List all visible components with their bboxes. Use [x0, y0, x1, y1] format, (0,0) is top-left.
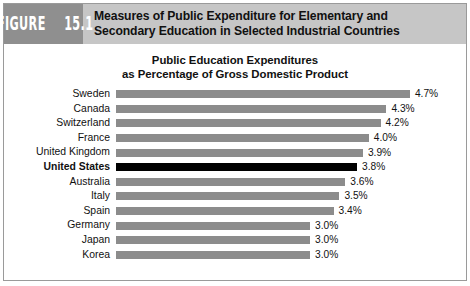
bar-value-label: 4.3%	[391, 104, 414, 114]
bar-row: Japan3.0%	[4, 233, 466, 248]
bar-value-label: 3.4%	[339, 206, 362, 216]
bar-row: Germany3.0%	[4, 218, 466, 233]
bar	[116, 134, 369, 142]
bar-row: United States3.8%	[4, 160, 466, 175]
bar	[116, 236, 310, 244]
bar-category-label: Japan	[4, 235, 116, 245]
bar-track: 4.0%	[116, 131, 466, 146]
bar-value-label: 3.0%	[315, 235, 338, 245]
bar-row: Canada4.3%	[4, 102, 466, 117]
figure-badge-number: 15.1	[64, 15, 93, 34]
bar-track: 4.7%	[116, 87, 466, 102]
bar-value-label: 4.2%	[386, 118, 409, 128]
figure-title-line-2: Secondary Education in Selected Industri…	[94, 24, 460, 39]
bar	[116, 149, 363, 157]
bar-track: 3.0%	[116, 218, 466, 233]
bar-category-label: United States	[4, 162, 116, 172]
bar	[116, 178, 345, 186]
figure-badge-word: FIGURE	[0, 15, 46, 34]
chart-title-line-2: as Percentage of Gross Domestic Product	[4, 67, 466, 81]
bar-row: United Kingdom3.9%	[4, 145, 466, 160]
bar-category-label: Germany	[4, 220, 116, 230]
bar	[116, 207, 334, 215]
bar	[116, 119, 381, 127]
bar-track: 3.9%	[116, 145, 466, 160]
bar-category-label: Italy	[4, 191, 116, 201]
figure-title: Measures of Public Expenditure for Eleme…	[94, 4, 460, 44]
figure-container: FIGURE 15.1 Measures of Public Expenditu…	[0, 0, 470, 286]
bar-track: 3.0%	[116, 248, 466, 263]
bar-category-label: Canada	[4, 104, 116, 114]
bar-category-label: Switzerland	[4, 118, 116, 128]
bar-value-label: 3.0%	[315, 250, 338, 260]
bar-row: Korea3.0%	[4, 248, 466, 263]
bar-chart-plot: Sweden4.7%Canada4.3%Switzerland4.2%Franc…	[4, 87, 466, 262]
bar-row: Sweden4.7%	[4, 87, 466, 102]
bar-category-label: France	[4, 133, 116, 143]
bar	[116, 251, 310, 259]
bar-row: France4.0%	[4, 131, 466, 146]
bar	[116, 222, 310, 230]
bar-track: 3.8%	[116, 160, 466, 175]
bar-track: 4.2%	[116, 116, 466, 131]
bar-value-label: 3.5%	[344, 191, 367, 201]
bar-row: Spain3.4%	[4, 204, 466, 219]
bar-category-label: Australia	[4, 177, 116, 187]
bar-track: 3.6%	[116, 175, 466, 190]
bar-track: 3.4%	[116, 204, 466, 219]
bar-category-label: United Kingdom	[4, 147, 116, 157]
bar-track: 4.3%	[116, 102, 466, 117]
chart-title-line-1: Public Education Expenditures	[4, 53, 466, 67]
figure-frame: FIGURE 15.1 Measures of Public Expenditu…	[3, 3, 467, 281]
bar-value-label: 3.6%	[350, 177, 373, 187]
bar-category-label: Sweden	[4, 89, 116, 99]
bar	[116, 192, 339, 200]
bar	[116, 163, 357, 171]
bar-value-label: 4.0%	[374, 133, 397, 143]
bar-row: Australia3.6%	[4, 175, 466, 190]
bar-row: Switzerland4.2%	[4, 116, 466, 131]
bar-row: Italy3.5%	[4, 189, 466, 204]
bar-value-label: 3.9%	[368, 148, 391, 158]
bar-track: 3.0%	[116, 233, 466, 248]
bar-value-label: 3.0%	[315, 221, 338, 231]
bar-value-label: 4.7%	[415, 89, 438, 99]
chart-title: Public Education Expenditures as Percent…	[4, 53, 466, 81]
bar	[116, 90, 410, 98]
bar-category-label: Spain	[4, 206, 116, 216]
figure-header-band: FIGURE 15.1 Measures of Public Expenditu…	[4, 4, 466, 44]
bar	[116, 105, 386, 113]
figure-title-line-1: Measures of Public Expenditure for Eleme…	[94, 9, 460, 24]
bar-track: 3.5%	[116, 189, 466, 204]
figure-number-badge: FIGURE 15.1	[4, 4, 83, 44]
bar-value-label: 3.8%	[362, 162, 385, 172]
bar-category-label: Korea	[4, 250, 116, 260]
